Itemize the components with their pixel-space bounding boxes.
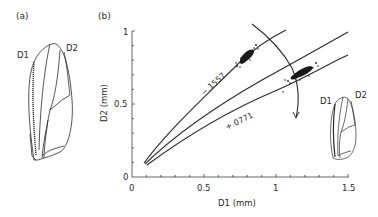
figure-canvas: D1 D2 1 0.5 0 0 0.5 1 1.5: [0, 0, 378, 217]
curve-lower-label: +.0771: [224, 111, 255, 132]
xtick-1: 1: [273, 183, 278, 193]
wing-left-d2-label: D2: [66, 43, 78, 53]
xtick-0: 0: [129, 183, 134, 193]
wing-right-drawing: [331, 97, 356, 160]
wing-left-drawing: [29, 44, 73, 160]
curve-lower: [147, 55, 348, 165]
wing-right-d2-label: D2: [355, 90, 367, 100]
scatter-cluster-upper: [235, 44, 258, 68]
y-axis-label: D2 (mm): [99, 84, 109, 122]
curve-upper-label: −.1557: [199, 71, 227, 98]
curve-upper: [144, 30, 286, 163]
ytick-0: 0: [123, 172, 128, 182]
ytick-1: 1: [123, 27, 128, 37]
curves: [144, 24, 348, 165]
ytick-0.5: 0.5: [114, 99, 128, 109]
xtick-1.5: 1.5: [342, 183, 356, 193]
x-axis-label: D1 (mm): [218, 198, 256, 208]
xtick-0.5: 0.5: [197, 183, 211, 193]
scatter-cluster-lower: [282, 62, 319, 93]
wing-left-d1-label: D1: [17, 50, 29, 60]
wing-right-d1-label: D1: [320, 96, 332, 106]
chart-axes: [132, 31, 349, 177]
transect-arrow: [252, 24, 298, 118]
